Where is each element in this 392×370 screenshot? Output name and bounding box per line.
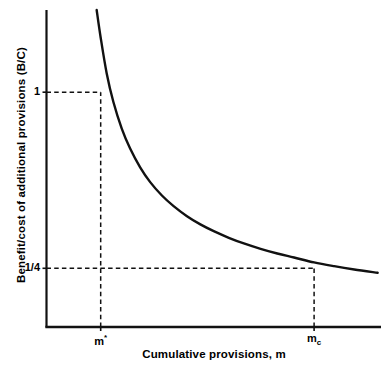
guide-lines-group (47, 92, 315, 327)
plot-area (0, 0, 392, 370)
chart-figure: Benefit/cost of additional provisions (B… (0, 0, 392, 370)
axis-lines-group (45, 10, 381, 328)
tick-marks-group (43, 92, 315, 331)
benefit-cost-curve (97, 10, 378, 273)
